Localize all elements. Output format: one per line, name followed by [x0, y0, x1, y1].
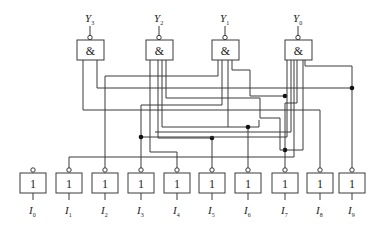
input-label-i4: I4	[173, 205, 180, 218]
y2-gate-symbol: &	[146, 45, 173, 57]
y3-gate-symbol: &	[77, 45, 104, 57]
input-label-i2: I2	[101, 205, 108, 218]
input-label-i1: I1	[65, 205, 72, 218]
i2-gate-symbol: 1	[92, 178, 118, 190]
input-label-i6: I6	[244, 205, 251, 218]
input-label-i7: I7	[281, 205, 288, 218]
output-label-y2: Y2	[154, 13, 163, 26]
i3-gate-symbol: 1	[128, 178, 154, 190]
i6-gate-symbol: 1	[235, 178, 261, 190]
wiring	[69, 60, 354, 168]
i4-gate-symbol: 1	[164, 178, 190, 190]
i9-gate-symbol: 1	[339, 178, 365, 190]
y0-gate-symbol: &	[285, 45, 312, 57]
output-label-y3: Y3	[85, 13, 94, 26]
i7-gate-symbol: 1	[272, 178, 298, 190]
input-label-i3: I3	[137, 205, 144, 218]
circuit-diagram	[0, 0, 376, 227]
i0-gate-symbol: 1	[20, 178, 46, 190]
input-label-i0: I0	[29, 205, 36, 218]
output-label-y1: Y1	[220, 13, 229, 26]
input-label-i5: I5	[208, 205, 215, 218]
i1-gate-symbol: 1	[56, 178, 82, 190]
input-label-i8: I8	[316, 205, 323, 218]
i5-gate-symbol: 1	[199, 178, 225, 190]
output-label-y0: Y0	[293, 13, 302, 26]
i8-gate-symbol: 1	[307, 178, 333, 190]
input-label-i9: I9	[348, 205, 355, 218]
y1-gate-symbol: &	[212, 45, 239, 57]
